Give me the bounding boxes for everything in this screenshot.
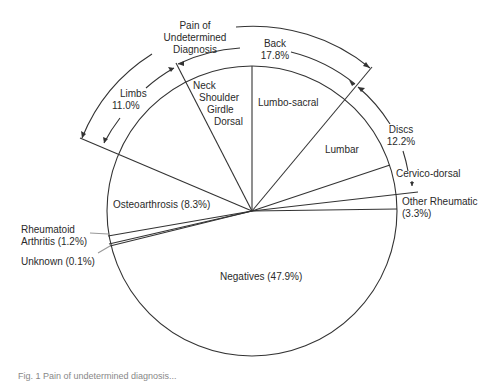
label-line: Back bbox=[255, 38, 295, 50]
label-rheumatoid-arthritis: Rheumatoid Arthritis (1.2%) bbox=[21, 224, 87, 248]
slice-divider bbox=[252, 209, 397, 211]
label-line: 11.0% bbox=[112, 100, 147, 112]
slice-divider bbox=[252, 67, 372, 211]
slice-divider bbox=[108, 211, 252, 236]
label-other-rheumatic: Other Rheumatic (3.3%) bbox=[402, 196, 478, 220]
label-negatives: Negatives (47.9%) bbox=[220, 271, 302, 283]
label-neck-shoulder: Neck Shoulder Girdle Dorsal bbox=[193, 80, 243, 128]
label-cervico-dorsal: Cervico-dorsal bbox=[396, 168, 460, 180]
slice-divider bbox=[110, 211, 252, 246]
label-line: Shoulder bbox=[193, 92, 243, 104]
label-line: (3.3%) bbox=[402, 208, 478, 220]
label-line: 12.2% bbox=[383, 136, 419, 148]
label-limbs: Limbs 11.0% bbox=[112, 88, 147, 112]
slice-divider bbox=[252, 192, 418, 211]
unknown-leader bbox=[98, 246, 110, 253]
label-lumbar: Lumbar bbox=[325, 144, 359, 156]
discs-arc-top bbox=[358, 87, 390, 124]
label-osteoarthrosis: Osteoarthrosis (8.3%) bbox=[113, 199, 210, 211]
arrowhead bbox=[81, 131, 86, 138]
figure-caption: Fig. 1 Pain of undetermined diagnosis... bbox=[18, 371, 177, 381]
label-pain-undetermined: Pain of Undetermined Diagnosis bbox=[160, 20, 230, 56]
label-line: Undetermined bbox=[160, 32, 230, 44]
label-line: Neck bbox=[193, 80, 243, 92]
arrowhead bbox=[358, 87, 365, 92]
label-line: Arthritis (1.2%) bbox=[21, 236, 87, 248]
label-line: Limbs bbox=[112, 88, 147, 100]
label-line: Girdle bbox=[193, 104, 243, 116]
label-line: Other Rheumatic bbox=[402, 196, 478, 208]
limbs-arc-top bbox=[146, 68, 174, 88]
ra-leader bbox=[90, 233, 108, 234]
label-line: Rheumatoid bbox=[21, 224, 87, 236]
label-unknown: Unknown (0.1%) bbox=[21, 256, 95, 268]
label-line: 17.8% bbox=[255, 50, 295, 62]
label-line: Diagnosis bbox=[160, 44, 230, 56]
slice-divider bbox=[252, 165, 390, 211]
label-back: Back 17.8% bbox=[255, 38, 295, 62]
label-lumbo-sacral: Lumbo-sacral bbox=[258, 97, 319, 109]
label-line: Discs bbox=[383, 124, 419, 136]
arrowhead bbox=[410, 182, 414, 186]
label-line: Dorsal bbox=[193, 116, 243, 128]
back-arc-right bbox=[291, 52, 355, 84]
label-line: Pain of bbox=[160, 20, 230, 32]
label-discs: Discs 12.2% bbox=[383, 124, 419, 148]
